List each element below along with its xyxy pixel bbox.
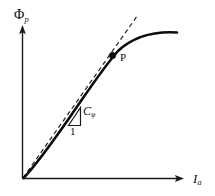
y-axis-label-symbol: Φ <box>14 7 24 22</box>
x-axis <box>23 175 185 182</box>
y-axis-label: Φp <box>14 8 29 22</box>
slope-coefficient-subscript: φ <box>91 110 95 119</box>
y-axis-label-subscript: p <box>24 14 28 24</box>
slope-run-label: 1 <box>70 126 76 137</box>
chart-canvas <box>0 0 215 196</box>
flux-vs-current-chart: Φp Ia P Cφ 1 <box>0 0 215 196</box>
point-p-marker <box>109 52 115 58</box>
y-axis <box>19 25 26 179</box>
x-axis-label-symbol: I <box>193 171 197 186</box>
x-axis-label: Ia <box>193 172 201 185</box>
x-axis-label-subscript: a <box>198 178 202 187</box>
slope-coefficient-symbol: C <box>83 104 91 118</box>
magnetisation-curve <box>24 32 178 178</box>
point-p-label: P <box>120 52 126 63</box>
slope-coefficient-label: Cφ <box>83 105 95 117</box>
tangent-line <box>23 16 138 179</box>
